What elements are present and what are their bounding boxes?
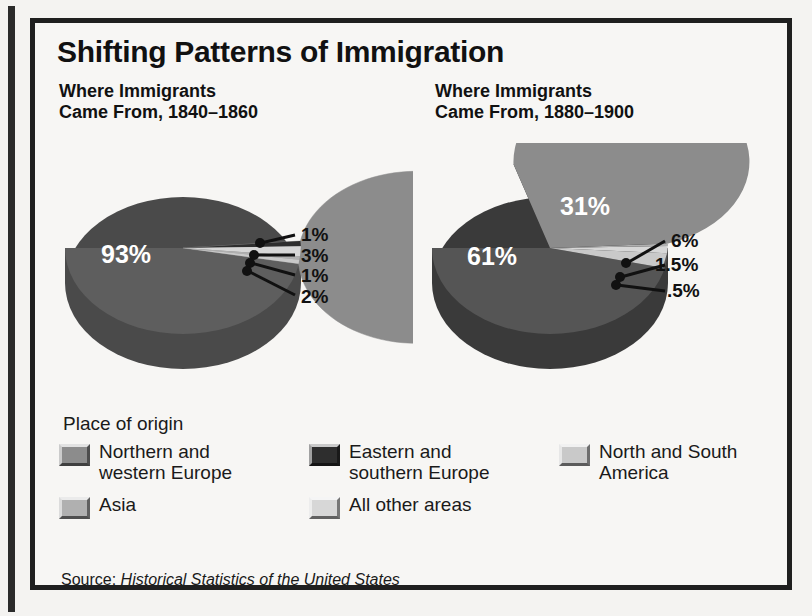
pie-slice-northern-western-europe-right	[513, 143, 749, 248]
legend-swatch-icon	[309, 497, 340, 519]
source-prefix: Source:	[61, 571, 116, 588]
chart-title-right: Where Immigrants Came From, 1880–1900	[435, 81, 634, 123]
pie-svg-left: 93% 1% 3% 1% 2%	[43, 143, 413, 393]
pie-callout-label-0-5: .5%	[667, 280, 700, 301]
legend-item-label: Asia	[99, 494, 136, 515]
source-note: Source: Historical Statistics of the Uni…	[61, 571, 400, 589]
pie-value-label-31: 31%	[560, 192, 610, 220]
legend-item-label: North and South America	[599, 441, 737, 484]
pie-callout-label-1-5: 1.5%	[655, 254, 698, 275]
figure-frame: Shifting Patterns of Immigration Where I…	[30, 18, 792, 590]
legend-item-label: All other areas	[349, 494, 472, 515]
legend-item-north-south-america: North and South America	[559, 441, 774, 484]
legend-grid: Northern and western Europe Eastern and …	[59, 441, 774, 519]
legend-item-northern-western-europe: Northern and western Europe	[59, 441, 309, 484]
pie-svg-right: 31% 61% 6% 1.5% .5%	[415, 143, 795, 393]
pie-callout-label-6: 6%	[671, 230, 699, 251]
legend-swatch-icon	[59, 444, 90, 466]
figure-page: Shifting Patterns of Immigration Where I…	[0, 0, 812, 616]
legend-swatch-icon	[559, 444, 590, 466]
figure-title: Shifting Patterns of Immigration	[57, 35, 504, 69]
pie-callout-label-2: 2%	[301, 286, 329, 307]
chart-title-left: Where Immigrants Came From, 1840–1860	[59, 81, 258, 123]
legend-item-label: Eastern and southern Europe	[349, 441, 490, 484]
legend-heading: Place of origin	[63, 413, 774, 435]
legend-item-eastern-southern-europe: Eastern and southern Europe	[309, 441, 559, 484]
pie-chart-1880-1900: 31% 61% 6% 1.5% .5%	[415, 143, 795, 393]
legend-swatch-icon	[59, 497, 90, 519]
pie-chart-1840-1860: 93% 1% 3% 1% 2%	[43, 143, 413, 393]
legend: Place of origin Northern and western Eur…	[59, 413, 774, 519]
legend-item-label: Northern and western Europe	[99, 441, 232, 484]
pie-value-label-93: 93%	[101, 240, 151, 268]
legend-spacer	[559, 494, 774, 519]
pie-value-label-61: 61%	[467, 242, 517, 270]
pie-callout-label-1-b: 1%	[301, 265, 329, 286]
legend-item-all-other-areas: All other areas	[309, 494, 559, 519]
legend-swatch-icon	[309, 444, 340, 466]
pie-callout-label-3: 3%	[301, 245, 329, 266]
legend-item-asia: Asia	[59, 494, 309, 519]
source-title: Historical Statistics of the United Stat…	[121, 571, 400, 588]
pie-callout-label-1-a: 1%	[301, 224, 329, 245]
